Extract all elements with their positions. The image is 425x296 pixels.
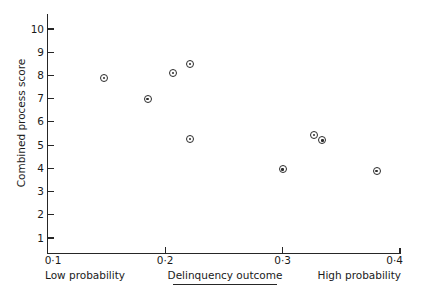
x-axis-title-underline — [173, 284, 277, 285]
y-tick-4 — [48, 168, 54, 169]
x-axis-title-text: Delinquency outcome — [168, 269, 283, 281]
y-tick-7 — [48, 98, 54, 99]
y-tick-8 — [48, 75, 54, 76]
y-tick-9 — [48, 52, 54, 53]
x-tick-0-4 — [399, 248, 400, 254]
x-axis-right-annotation: High probability — [318, 269, 402, 281]
data-point — [373, 167, 381, 175]
x-tick-label-0-2: 0·2 — [135, 255, 195, 266]
data-point — [310, 131, 318, 139]
x-tick-label-0-1: 0·1 — [45, 255, 105, 266]
y-tick-5 — [48, 145, 54, 146]
data-point — [186, 60, 194, 68]
data-point — [279, 165, 287, 173]
x-axis-title: Delinquency outcome — [147, 269, 303, 285]
data-point — [318, 136, 326, 144]
data-point — [100, 74, 108, 82]
y-axis-title: Combined process score — [14, 3, 28, 243]
x-tick-0-3 — [282, 247, 283, 253]
x-tick-label-0-4: 0·4 — [343, 255, 403, 266]
data-point — [144, 95, 152, 103]
y-axis-line — [47, 14, 48, 254]
y-tick-3 — [48, 191, 54, 192]
x-axis-line — [47, 253, 401, 254]
x-tick-label-0-3: 0·3 — [253, 255, 313, 266]
y-tick-6 — [48, 121, 54, 122]
data-point — [186, 135, 194, 143]
scatter-plot-figure: 12345678910 0·10·20·30·4 Combined proces… — [0, 0, 425, 296]
y-tick-1 — [48, 237, 54, 238]
x-axis-left-annotation: Low probability — [45, 269, 125, 281]
y-tick-2 — [48, 214, 54, 215]
x-tick-0-1 — [47, 248, 48, 254]
x-tick-0-2 — [165, 247, 166, 253]
y-tick-10 — [48, 28, 54, 29]
data-point — [169, 69, 177, 77]
